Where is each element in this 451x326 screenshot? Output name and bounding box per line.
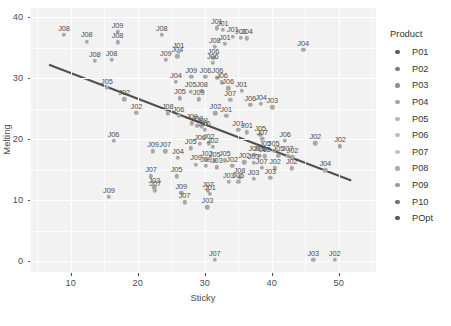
x-tick-label-50: 50 (334, 278, 344, 288)
data-point-label: J09 (185, 66, 197, 73)
legend-item-p01[interactable]: P01 (390, 44, 433, 61)
legend-dot-icon (395, 117, 399, 121)
legend-key-icon (390, 45, 405, 60)
legend-dot-icon (395, 83, 399, 87)
legend-item-p07[interactable]: P07 (390, 144, 433, 161)
y-tick-mark-0 (28, 261, 31, 262)
data-point-label: J07 (149, 180, 161, 187)
x-tick-label-30: 30 (200, 278, 210, 288)
data-point-label: J06 (200, 66, 212, 73)
data-point-label: J04 (297, 39, 309, 46)
legend-dot-icon (395, 183, 399, 187)
data-point-label: J07 (145, 166, 157, 173)
data-point-label: J08 (196, 80, 208, 87)
x-tick-mark-20 (138, 273, 139, 276)
data-point-label: J09 (193, 89, 205, 96)
legend-rows: P01P02P03P04P05P06P07P08P09P10POpt (390, 44, 433, 227)
data-point-label: J02 (269, 158, 281, 165)
x-tick-mark-40 (272, 273, 273, 276)
data-point-label: J05 (101, 77, 113, 84)
data-point-label: J09 (175, 182, 187, 189)
legend-key-icon (390, 95, 405, 110)
data-point-label: J09 (103, 186, 115, 193)
legend-dot-icon (395, 166, 399, 170)
data-point-label: J06 (207, 52, 219, 59)
data-point-label: J02 (259, 146, 271, 153)
gridline-h-25 (31, 109, 376, 110)
legend-item-p08[interactable]: P08 (390, 160, 433, 177)
legend-item-p03[interactable]: P03 (390, 77, 433, 94)
data-point-label: J03 (248, 168, 260, 175)
data-point-label: J04 (319, 160, 331, 167)
data-point-label: J04 (170, 71, 182, 78)
legend-item-p10[interactable]: P10 (390, 193, 433, 210)
legend-item-p09[interactable]: P09 (390, 177, 433, 194)
data-point-label: J03 (202, 197, 214, 204)
x-tick-mark-50 (339, 273, 340, 276)
data-point-label: J02 (131, 102, 143, 109)
legend-item-p04[interactable]: P04 (390, 94, 433, 111)
data-point-label: J02 (286, 158, 298, 165)
legend-key-icon (390, 144, 405, 159)
legend-label: POpt (412, 213, 433, 223)
data-point-label: J08 (156, 24, 168, 31)
legend-key-icon (390, 211, 405, 226)
x-tick-label-40: 40 (267, 278, 277, 288)
legend-item-p05[interactable]: P05 (390, 110, 433, 127)
legend-label: P03 (412, 80, 428, 90)
legend-key-icon (390, 194, 405, 209)
legend-dot-icon (395, 100, 399, 104)
data-point-label: J08 (81, 31, 93, 38)
data-point-label: J07 (224, 89, 236, 96)
legend-label: P01 (412, 47, 428, 57)
data-point-label: J06 (108, 130, 120, 137)
x-axis-label: Sticky (31, 292, 376, 303)
legend-item-p06[interactable]: P06 (390, 127, 433, 144)
x-tick-mark-30 (205, 273, 206, 276)
data-point-label: J01 (220, 105, 232, 112)
data-point-label: J08 (106, 49, 118, 56)
y-tick-mark-10 (28, 200, 31, 201)
data-point-label: J04 (255, 93, 267, 100)
data-point-label: J02 (334, 136, 346, 143)
data-point-label: J04 (172, 147, 184, 154)
legend-key-icon (390, 61, 405, 76)
legend-label: P04 (412, 97, 428, 107)
legend-dot-icon (395, 200, 399, 204)
y-tick-mark-40 (28, 17, 31, 18)
y-tick-label-10: 10 (2, 195, 23, 205)
legend-label: P07 (412, 147, 428, 157)
legend-dot-icon (395, 50, 399, 54)
data-point-label: J07 (209, 249, 221, 256)
data-point-label: J08 (209, 36, 221, 43)
legend: Product P01P02P03P04P05P06P07P08P09P10PO… (390, 28, 433, 227)
y-tick-mark-20 (28, 139, 31, 140)
legend-label: P09 (412, 180, 428, 190)
data-point-label: J04 (241, 28, 253, 35)
legend-label: P08 (412, 163, 428, 173)
data-point-label: J03 (307, 249, 319, 256)
data-point-label: J09 (112, 21, 124, 28)
data-point-label: J05 (185, 138, 197, 145)
data-point-label: J08 (112, 32, 124, 39)
legend-item-p02[interactable]: P02 (390, 61, 433, 78)
plot-panel: J08J08J09J08J08J08J08J09J04J01J01J01J01J… (31, 8, 376, 272)
data-point-label: J06 (279, 130, 291, 137)
legend-item-popt[interactable]: POpt (390, 210, 433, 227)
legend-dot-icon (395, 216, 399, 220)
data-point-label: J05 (232, 171, 244, 178)
data-point-label: J06 (199, 119, 211, 126)
data-point-label: J02 (309, 133, 321, 140)
data-point-label: J07 (179, 192, 191, 199)
legend-label: P10 (412, 197, 428, 207)
data-point-label: J07 (159, 141, 171, 148)
data-point-label: J01 (236, 80, 248, 87)
data-point-label: J02 (329, 249, 341, 256)
legend-key-icon (390, 161, 405, 176)
legend-dot-icon (395, 67, 399, 71)
data-point-label: J09 (147, 141, 159, 148)
y-tick-label-40: 40 (2, 12, 23, 22)
data-point-label: J06 (173, 105, 185, 112)
data-point-label: J08 (58, 24, 70, 31)
data-point-label: J07 (256, 128, 268, 135)
